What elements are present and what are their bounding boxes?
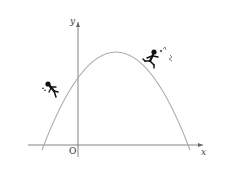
falling-person-icon bbox=[45, 81, 58, 97]
x-axis-label: x bbox=[201, 148, 206, 157]
motion-squiggle-icon bbox=[160, 47, 172, 61]
parabola-curve bbox=[42, 52, 190, 150]
y-axis-label: y bbox=[70, 17, 75, 26]
y-axis-arrow-icon bbox=[76, 22, 80, 27]
x-axis bbox=[28, 143, 203, 147]
y-axis bbox=[76, 22, 80, 157]
sweat-drops-icon bbox=[42, 87, 46, 91]
origin-label: O bbox=[69, 147, 76, 156]
running-person-icon bbox=[143, 49, 158, 68]
